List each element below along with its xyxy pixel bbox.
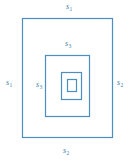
- inner-rectangle: [62, 73, 82, 100]
- label-s3-left-subscript: 3: [39, 84, 42, 90]
- label-s2-right: s2: [117, 79, 123, 88]
- label-s3-top-subscript: 3: [68, 43, 71, 49]
- label-s2-right-subscript: 2: [120, 82, 123, 88]
- label-s3-top: s3: [65, 40, 71, 49]
- label-s1-top-subscript: 1: [69, 6, 72, 12]
- spiral-figure: s1 s1 s2 s2 s3 s3: [0, 0, 138, 163]
- label-s1-top: s1: [66, 3, 72, 12]
- outer-rectangle: [23, 19, 113, 138]
- label-s1-left: s1: [6, 79, 12, 88]
- label-s1-left-subscript: 1: [9, 82, 12, 88]
- innermost-rectangle: [68, 80, 77, 92]
- label-s2-bottom-subscript: 2: [66, 150, 69, 156]
- label-s3-left: s3: [36, 81, 42, 90]
- label-s2-bottom: s2: [63, 147, 69, 156]
